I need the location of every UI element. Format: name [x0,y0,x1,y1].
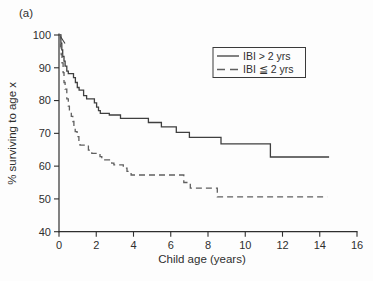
x-tick-label: 2 [93,239,99,251]
y-tick-label: 50 [39,193,51,205]
y-tick-label: 60 [39,160,51,172]
legend-label-0: IBI > 2 yrs [243,50,291,62]
x-tick-label: 14 [314,239,326,251]
y-tick-label: 100 [33,29,51,41]
x-axis-title: Child age (years) [158,253,246,265]
x-tick-label: 12 [276,239,288,251]
y-tick-label: 90 [39,62,51,74]
y-axis-title: % surviving to age x [6,82,18,185]
x-tick-label: 4 [130,239,136,251]
legend-label-1: IBI ≦ 2 yrs [243,63,293,75]
x-tick-label: 6 [168,239,174,251]
x-tick-label: 0 [56,239,62,251]
survival-figure: (a) 4050607080901000246810121416% surviv… [0,0,373,281]
y-tick-label: 80 [39,94,51,106]
x-tick-label: 16 [351,239,363,251]
y-tick-label: 40 [39,226,51,238]
legend: IBI > 2 yrsIBI ≦ 2 yrs [213,48,306,78]
x-tick-label: 10 [239,239,251,251]
y-tick-label: 70 [39,127,51,139]
x-tick-label: 8 [205,239,211,251]
survival-chart: 4050607080901000246810121416% surviving … [0,0,373,281]
